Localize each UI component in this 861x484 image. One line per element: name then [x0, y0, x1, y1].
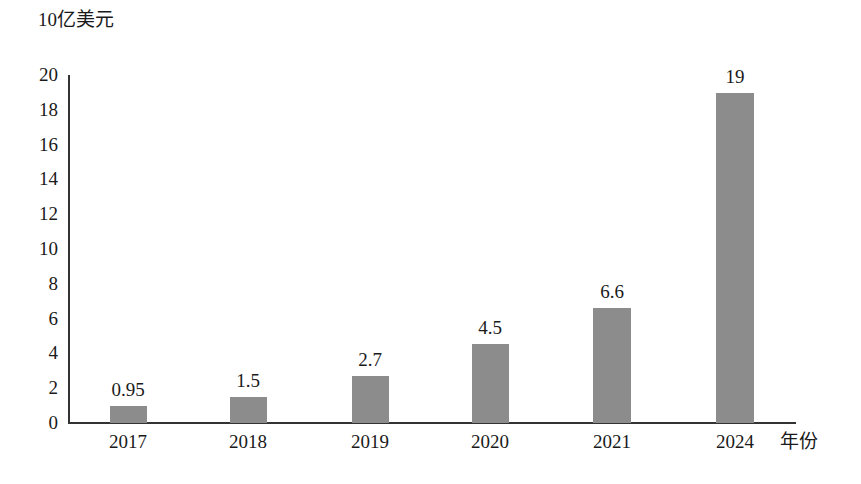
- bar-value-label: 4.5: [450, 318, 530, 338]
- bar-value-label: 2.7: [330, 350, 410, 370]
- x-axis-title: 年份: [780, 432, 818, 452]
- x-tick-label: 2019: [330, 432, 410, 452]
- x-tick-label: 2024: [695, 432, 775, 452]
- y-tick-label: 10: [18, 239, 58, 259]
- y-tick-label: 20: [18, 65, 58, 85]
- bar-2021: [593, 308, 631, 423]
- x-tick-label: 2017: [88, 432, 168, 452]
- x-tick-label: 2018: [208, 432, 288, 452]
- bar-2024: [716, 93, 754, 423]
- bar-value-label: 1.5: [208, 371, 288, 391]
- bar-value-label: 0.95: [88, 380, 168, 400]
- y-tick-label: 12: [18, 204, 58, 224]
- y-tick-label: 18: [18, 100, 58, 120]
- chart: 10亿美元 20 18 16 14 12 10 8 6 4 2 0 0.95 2…: [0, 0, 861, 484]
- y-tick-label: 16: [18, 135, 58, 155]
- y-tick-label: 6: [18, 309, 58, 329]
- bar-2018: [230, 397, 267, 423]
- bar-2017: [110, 406, 147, 423]
- x-axis-line: [68, 422, 796, 424]
- x-tick-label: 2021: [572, 432, 652, 452]
- x-tick-label: 2020: [450, 432, 530, 452]
- bar-2019: [352, 376, 389, 423]
- bar-value-label: 6.6: [572, 282, 652, 302]
- y-axis-title: 10亿美元: [38, 4, 114, 31]
- y-tick-label: 0: [18, 413, 58, 433]
- y-tick-label: 8: [18, 274, 58, 294]
- y-tick-label: 14: [18, 169, 58, 189]
- bar-value-label: 19: [695, 67, 775, 87]
- bar-2020: [472, 344, 509, 423]
- y-tick-label: 4: [18, 343, 58, 363]
- y-tick-label: 2: [18, 378, 58, 398]
- y-axis-line: [68, 75, 70, 424]
